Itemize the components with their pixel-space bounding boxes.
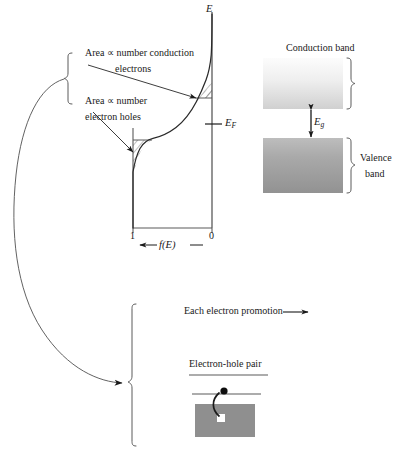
x-tick-left: 1 [130, 230, 135, 243]
electron-hole-pair-sketch [189, 375, 268, 437]
promotion-text: Each electron promotion [184, 305, 283, 318]
x-axis-label: f(E) [159, 238, 175, 251]
electron-hole-pair-label: Electron-hole pair [189, 358, 261, 371]
annotation-brace [64, 53, 72, 104]
band-braces [347, 58, 355, 193]
conduction-band-block [263, 58, 343, 109]
promotion-brace [128, 304, 136, 446]
valence-band-label-line2: band [365, 168, 384, 181]
conduction-area-annotation-line1: Area ∝ number conduction [85, 47, 194, 60]
holes-area-annotation-line1: Area ∝ number [85, 95, 147, 108]
x-tick-right: 0 [209, 230, 214, 243]
electron-dot [220, 387, 227, 394]
fermi-level-label: EF [225, 116, 236, 130]
figure-vector-layer [0, 0, 405, 451]
valence-band-label-line1: Valence [360, 152, 392, 165]
conduction-band-label: Conduction band [286, 42, 355, 55]
annotation-leaders [88, 65, 196, 152]
valence-band-brace [347, 138, 355, 193]
plot-y-axis-label: E [206, 2, 212, 15]
conduction-band-brace [347, 58, 355, 109]
holes-area-annotation-line2: electron holes [85, 111, 141, 124]
valence-band-block [263, 138, 343, 193]
figure-root: E EF 1 0 f(E) Area ∝ number conduction e… [0, 0, 405, 451]
band-diagram [263, 58, 343, 193]
band-gap-label: Eg [314, 115, 324, 129]
conduction-area-annotation-line2: electrons [115, 63, 151, 76]
plot-axes [133, 12, 212, 233]
